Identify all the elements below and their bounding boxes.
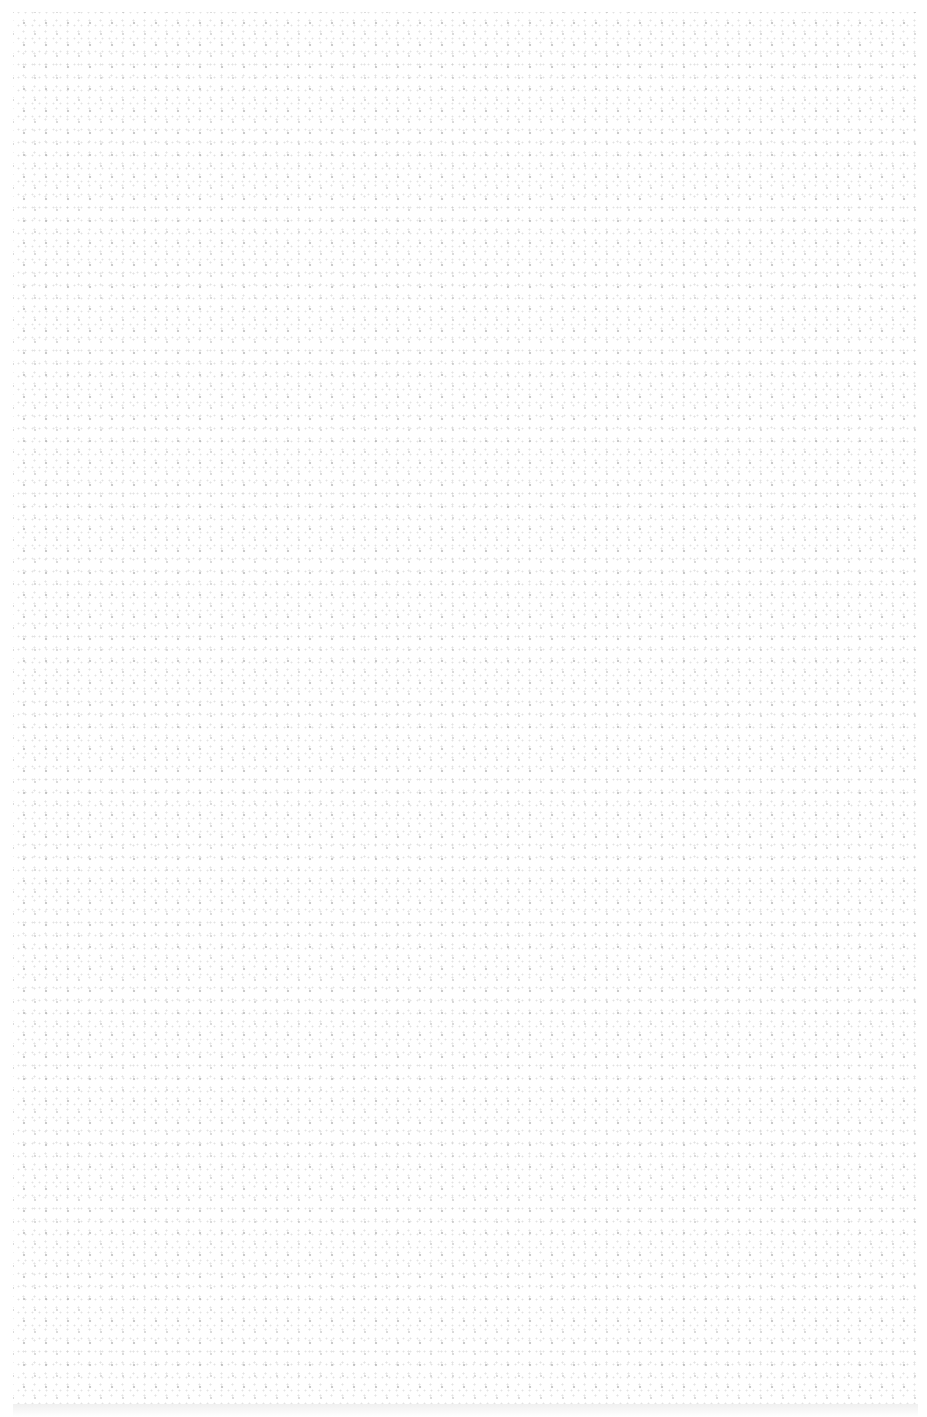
blank-page (0, 0, 927, 1417)
bottom-edge-shadow (13, 1404, 918, 1417)
dotted-texture-panel (13, 12, 918, 1404)
